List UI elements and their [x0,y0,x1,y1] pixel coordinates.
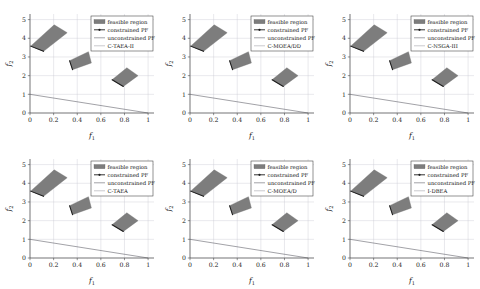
legend-label-1: constrained PF [268,172,309,178]
xtick-label-1: 0.2 [49,261,59,268]
subplot-c-taea-ii: 00.20.40.60.81012345f1f2feasible regionc… [0,0,160,145]
xtick-label-4: 0.8 [120,116,130,123]
legend-marker-constrained-pf [258,174,260,176]
xtick-label-4: 0.8 [280,116,290,123]
legend-swatch-feasible-region [94,165,105,169]
ytick-label-0: 0 [22,109,26,116]
ytick-label-3: 3 [182,198,186,205]
figure-grid: 00.20.40.60.81012345f1f2feasible regionc… [0,0,480,289]
ytick-label-3: 3 [22,198,26,205]
xtick-label-5: 1 [146,116,150,123]
feasible-region-lower-right [112,68,138,87]
x-axis-label: f1 [408,131,415,141]
ytick-label-0: 0 [182,109,186,116]
xtick-label-5: 1 [466,116,470,123]
feasible-region-lower-right [112,213,138,232]
ytick-label-4: 4 [22,34,26,41]
unconstrained-pf-line [190,94,308,113]
legend-label-2: unconstrained PF [268,180,316,186]
legend-label-0: feasible region [428,164,469,171]
legend-label-2: unconstrained PF [428,180,476,186]
legend-marker-constrained-pf [98,29,100,31]
y-axis-label: f2 [4,205,14,212]
xtick-label-2: 0.4 [392,261,402,268]
xtick-label-3: 0.6 [256,116,266,123]
feasible-region-lower-right [432,213,458,232]
subplot-c-nsga-iii: 00.20.40.60.81012345f1f2feasible regionc… [320,0,480,145]
ytick-label-0: 0 [342,109,346,116]
feasible-region-lower-right [272,213,298,232]
ytick-label-3: 3 [342,53,346,60]
subplot-i-dbea: 00.20.40.60.81012345f1f2feasible regionc… [320,145,480,289]
ytick-label-2: 2 [22,217,26,224]
legend-swatch-feasible-region [254,165,265,169]
x-axis-label: f1 [408,276,415,286]
legend-label-1: constrained PF [108,172,149,178]
ytick-label-1: 1 [342,236,346,243]
plot-area: 00.20.40.60.81012345f1f2feasible regionc… [0,145,160,289]
ytick-label-2: 2 [182,72,186,79]
legend-label-3: C-MOEA/D [268,188,297,194]
ytick-label-0: 0 [342,254,346,261]
feasible-region-lower-right [432,68,458,87]
x-axis-label: f1 [248,131,255,141]
xtick-label-4: 0.8 [440,261,450,268]
feasible-region-middle [390,197,412,215]
plot-area: 00.20.40.60.81012345f1f2feasible regionc… [160,145,320,289]
y-axis-label: f2 [324,205,334,212]
ytick-label-4: 4 [342,34,346,41]
ytick-label-1: 1 [22,91,26,98]
legend-label-3: C-TAEA-II [108,43,134,49]
xtick-label-0: 0 [348,261,352,268]
xtick-label-5: 1 [306,116,310,123]
ytick-label-4: 4 [22,179,26,186]
ytick-label-4: 4 [182,179,186,186]
legend-swatch-feasible-region [254,20,265,24]
plot-area: 00.20.40.60.81012345f1f2feasible regionc… [320,0,480,145]
ytick-label-2: 2 [342,72,346,79]
legend-swatch-feasible-region [414,165,425,169]
xtick-label-5: 1 [306,261,310,268]
unconstrained-pf-line [30,239,148,258]
y-axis-label: f2 [324,60,334,67]
x-axis-label: f1 [88,276,95,286]
legend-marker-constrained-pf [418,29,420,31]
plot-area: 00.20.40.60.81012345f1f2feasible regionc… [0,0,160,145]
xtick-label-0: 0 [188,261,192,268]
xtick-label-3: 0.6 [96,261,106,268]
xtick-label-1: 0.2 [209,116,219,123]
xtick-label-3: 0.6 [416,261,426,268]
legend: feasible regionconstrained PFunconstrain… [251,161,315,196]
xtick-label-2: 0.4 [72,261,82,268]
legend-marker-constrained-pf [258,29,260,31]
xtick-label-3: 0.6 [256,261,266,268]
unconstrained-pf-line [350,94,468,113]
feasible-region-middle [230,197,252,215]
ytick-label-1: 1 [182,91,186,98]
legend-label-1: constrained PF [108,27,149,33]
legend-label-2: unconstrained PF [108,35,156,41]
legend-marker-constrained-pf [98,174,100,176]
legend: feasible regionconstrained PFunconstrain… [411,161,475,196]
legend-label-2: unconstrained PF [108,180,156,186]
legend-label-1: constrained PF [428,27,469,33]
legend-label-2: unconstrained PF [428,35,476,41]
ytick-label-5: 5 [182,16,186,23]
ytick-label-0: 0 [182,254,186,261]
xtick-label-1: 0.2 [209,261,219,268]
ytick-label-1: 1 [22,236,26,243]
x-axis-label: f1 [88,131,95,141]
unconstrained-pf-line [190,239,308,258]
legend-swatch-feasible-region [94,20,105,24]
subplot-c-moea-d: 00.20.40.60.81012345f1f2feasible regionc… [160,145,320,289]
ytick-label-5: 5 [22,161,26,168]
legend-label-3: C-TAEA [108,188,129,194]
subplot-c-moea-dd: 00.20.40.60.81012345f1f2feasible regionc… [160,0,320,145]
xtick-label-1: 0.2 [369,116,379,123]
y-axis-label: f2 [164,60,174,67]
feasible-region-middle [390,52,412,70]
xtick-label-3: 0.6 [96,116,106,123]
ytick-label-5: 5 [22,16,26,23]
subplot-c-taea: 00.20.40.60.81012345f1f2feasible regionc… [0,145,160,289]
unconstrained-pf-line [30,94,148,113]
